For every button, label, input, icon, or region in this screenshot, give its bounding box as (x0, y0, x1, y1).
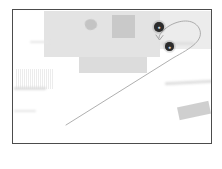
map-frame[interactable]: ● ● (12, 9, 212, 144)
map-pin-upper-glyph: ● (157, 25, 160, 30)
map-pin-lower-glyph: ● (168, 44, 171, 49)
map-pin-upper[interactable]: ● (154, 22, 164, 32)
map-pin-lower[interactable]: ● (165, 42, 174, 51)
route-arrow-path (66, 21, 200, 125)
route-arrow (13, 10, 211, 143)
screenshot-root: ● ● (0, 0, 222, 169)
map-canvas[interactable]: ● ● (13, 10, 211, 143)
